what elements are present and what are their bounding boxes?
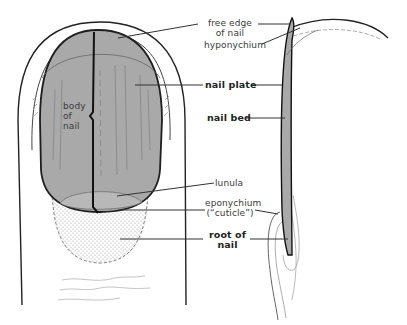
leader-eponychium-side [255, 210, 278, 214]
label-eponychium-line2: (“cuticle”) [205, 208, 255, 218]
label-eponychium-line1: eponychium [205, 198, 255, 208]
label-body-of-nail: body of nail [63, 101, 86, 131]
eponychium-fold [268, 212, 280, 320]
finger-side-section [268, 18, 388, 320]
label-body-line2: of [63, 111, 86, 121]
nail-plate-shape [40, 30, 162, 212]
label-free-edge-line2: of nail [202, 28, 258, 38]
label-lunula: lunula [215, 178, 243, 188]
fingertip-inner-outline [288, 30, 382, 40]
label-nail-plate: nail plate [205, 80, 251, 90]
finger-front-view [18, 22, 186, 305]
label-nail-bed: nail bed [207, 113, 245, 123]
label-body-line1: body [63, 101, 86, 111]
label-free-edge: free edge of nail [202, 18, 258, 38]
label-root-of-nail: root of nail [205, 230, 250, 250]
label-free-edge-line1: free edge [202, 18, 258, 28]
label-hyponychium: hyponychium [204, 40, 264, 50]
label-body-line3: nail [63, 121, 86, 131]
fingertip-outline [290, 19, 388, 38]
label-eponychium: eponychium (“cuticle”) [205, 198, 255, 218]
label-root-line2: nail [205, 240, 250, 250]
